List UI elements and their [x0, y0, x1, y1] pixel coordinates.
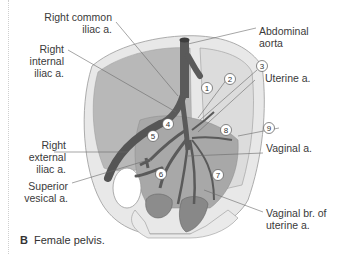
figure-caption: BFemale pelvis.: [20, 234, 105, 246]
label-right-external-iliac: Right external iliac a.: [14, 139, 66, 175]
label-line: Vaginal br. of: [266, 207, 327, 219]
svg-text:6: 6: [159, 170, 164, 179]
svg-text:4: 4: [166, 120, 171, 129]
label-vaginal-branch: Vaginal br. of uterine a.: [266, 207, 327, 231]
label-line: iliac a.: [14, 163, 66, 175]
abdominal-aorta: [180, 40, 189, 98]
marker-1: 1: [202, 83, 213, 94]
svg-text:1: 1: [205, 84, 210, 93]
label-line: Right: [14, 139, 66, 151]
svg-text:7: 7: [216, 171, 221, 180]
label-vaginal: Vaginal a.: [266, 142, 312, 154]
obturator-foramen: [113, 168, 141, 208]
label-line: Right common: [42, 11, 112, 23]
svg-text:3: 3: [260, 62, 265, 71]
label-line: Right: [14, 43, 64, 55]
label-uterine: Uterine a.: [265, 72, 311, 84]
caption-text: Female pelvis.: [34, 234, 105, 246]
label-right-internal-iliac: Right internal iliac a.: [14, 43, 64, 79]
label-right-common-iliac: Right common iliac a.: [42, 11, 112, 35]
label-line: vesical a.: [14, 192, 68, 204]
label-line: Vaginal a.: [266, 142, 312, 154]
marker-2: 2: [225, 74, 236, 85]
marker-9: 9: [264, 123, 275, 134]
marker-8: 8: [221, 125, 232, 136]
marker-4: 4: [163, 119, 174, 130]
marker-6: 6: [156, 169, 167, 180]
label-line: Abdominal: [259, 25, 309, 37]
svg-text:5: 5: [151, 132, 156, 141]
figure: 1 2 3 4 5 6 7 8 9 Right common iliac a. …: [0, 0, 338, 254]
label-line: uterine a.: [266, 219, 327, 231]
label-line: Uterine a.: [265, 72, 311, 84]
label-line: Superior: [14, 180, 68, 192]
label-superior-vesical: Superior vesical a.: [14, 180, 68, 204]
label-line: iliac a.: [14, 67, 64, 79]
marker-5: 5: [148, 131, 159, 142]
label-line: external: [14, 151, 66, 163]
svg-text:2: 2: [228, 75, 233, 84]
marker-3: 3: [257, 61, 268, 72]
svg-text:9: 9: [267, 124, 272, 133]
label-line: aorta: [259, 37, 309, 49]
svg-text:8: 8: [224, 126, 229, 135]
caption-letter: B: [20, 234, 28, 246]
label-abdominal-aorta: Abdominal aorta: [259, 25, 309, 49]
aorta-top: [180, 38, 190, 43]
marker-7: 7: [213, 170, 224, 181]
label-line: iliac a.: [42, 23, 112, 35]
label-line: internal: [14, 55, 64, 67]
